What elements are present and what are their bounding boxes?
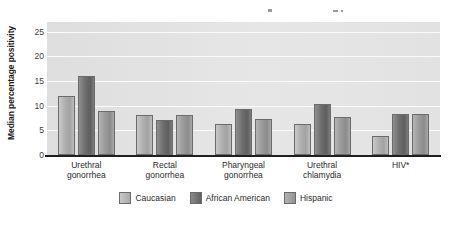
bar xyxy=(235,109,252,155)
legend-swatch xyxy=(284,192,296,204)
x-category-label-line: HIV* xyxy=(361,160,440,170)
bar xyxy=(58,96,75,155)
legend-swatch xyxy=(119,192,131,204)
bar-chart: Median percentage positivity 0510152025 … xyxy=(0,0,452,227)
legend-item: African American xyxy=(190,192,270,204)
bar xyxy=(98,111,115,155)
scan-speck-artifact xyxy=(333,10,338,12)
legend: CaucasianAfrican AmericanHispanic xyxy=(0,192,452,204)
bar xyxy=(412,114,429,155)
x-axis-line xyxy=(45,155,441,157)
y-tick-label: 10 xyxy=(20,101,44,111)
y-axis-title: Median percentage positivity xyxy=(0,0,22,165)
bar xyxy=(156,120,173,155)
y-tick-label: 20 xyxy=(20,51,44,61)
legend-item: Caucasian xyxy=(119,192,175,204)
bar xyxy=(78,76,95,155)
legend-label: African American xyxy=(206,193,270,203)
scan-speck-artifact xyxy=(268,9,272,12)
legend-swatch xyxy=(190,192,202,204)
x-category-label-line: Urethral xyxy=(283,160,362,170)
x-category-label: Urethralchlamydia xyxy=(283,160,362,180)
x-category-label: Urethralgonorrhea xyxy=(47,160,126,180)
x-category-label: Rectalgonorrhea xyxy=(126,160,205,180)
bar xyxy=(372,136,389,155)
x-category-label-line: gonorrhea xyxy=(47,170,126,180)
x-category-label: Pharyngealgonorrhea xyxy=(204,160,283,180)
scan-speck-artifact xyxy=(341,10,343,12)
y-tick-label: 5 xyxy=(20,125,44,135)
x-category-label-line: Rectal xyxy=(126,160,205,170)
x-category-label-line: Pharyngeal xyxy=(204,160,283,170)
y-tick-label: 25 xyxy=(20,27,44,37)
legend-item: Hispanic xyxy=(284,192,333,204)
bar xyxy=(334,117,351,155)
bars-layer xyxy=(47,22,440,155)
bar xyxy=(392,114,409,155)
x-category-label: HIV* xyxy=(361,160,440,170)
legend-label: Caucasian xyxy=(135,193,175,203)
bar xyxy=(255,119,272,155)
y-tick-label: 15 xyxy=(20,76,44,86)
bar xyxy=(294,124,311,155)
x-category-label-line: gonorrhea xyxy=(204,170,283,180)
legend-label: Hispanic xyxy=(300,193,333,203)
x-category-label-line: chlamydia xyxy=(283,170,362,180)
y-axis-title-text: Median percentage positivity xyxy=(6,26,16,140)
y-tick-label: 0 xyxy=(20,150,44,160)
bar xyxy=(314,104,331,155)
bar xyxy=(136,115,153,155)
bar xyxy=(215,124,232,155)
x-category-label-line: gonorrhea xyxy=(126,170,205,180)
x-category-label-line: Urethral xyxy=(47,160,126,170)
bar xyxy=(176,115,193,155)
